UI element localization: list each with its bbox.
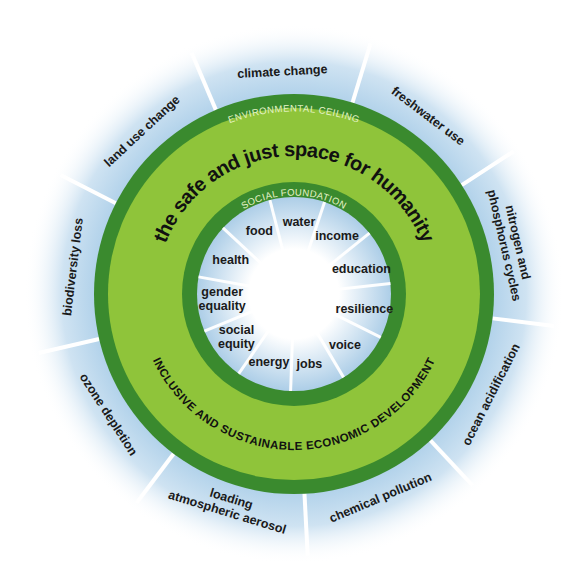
social-foundation-item: genderequality <box>199 285 246 313</box>
inner-divider <box>291 334 293 391</box>
social-foundation-item: water <box>282 215 316 229</box>
social-foundation-item: health <box>212 253 249 267</box>
social-foundation-item: jobs <box>296 357 323 371</box>
social-foundation-item: energy <box>248 355 289 369</box>
doughnut-svg: ENVIRONMENTAL CEILING the safe and just … <box>0 0 587 584</box>
social-foundation-item: income <box>315 229 359 243</box>
social-foundation-item: voice <box>329 338 361 352</box>
social-foundation-item: food <box>246 224 273 238</box>
social-foundation-item: socialequity <box>218 323 255 351</box>
social-foundation-item: resilience <box>336 302 394 316</box>
social-foundation-item: education <box>332 262 391 276</box>
doughnut-diagram: ENVIRONMENTAL CEILING the safe and just … <box>0 0 587 584</box>
